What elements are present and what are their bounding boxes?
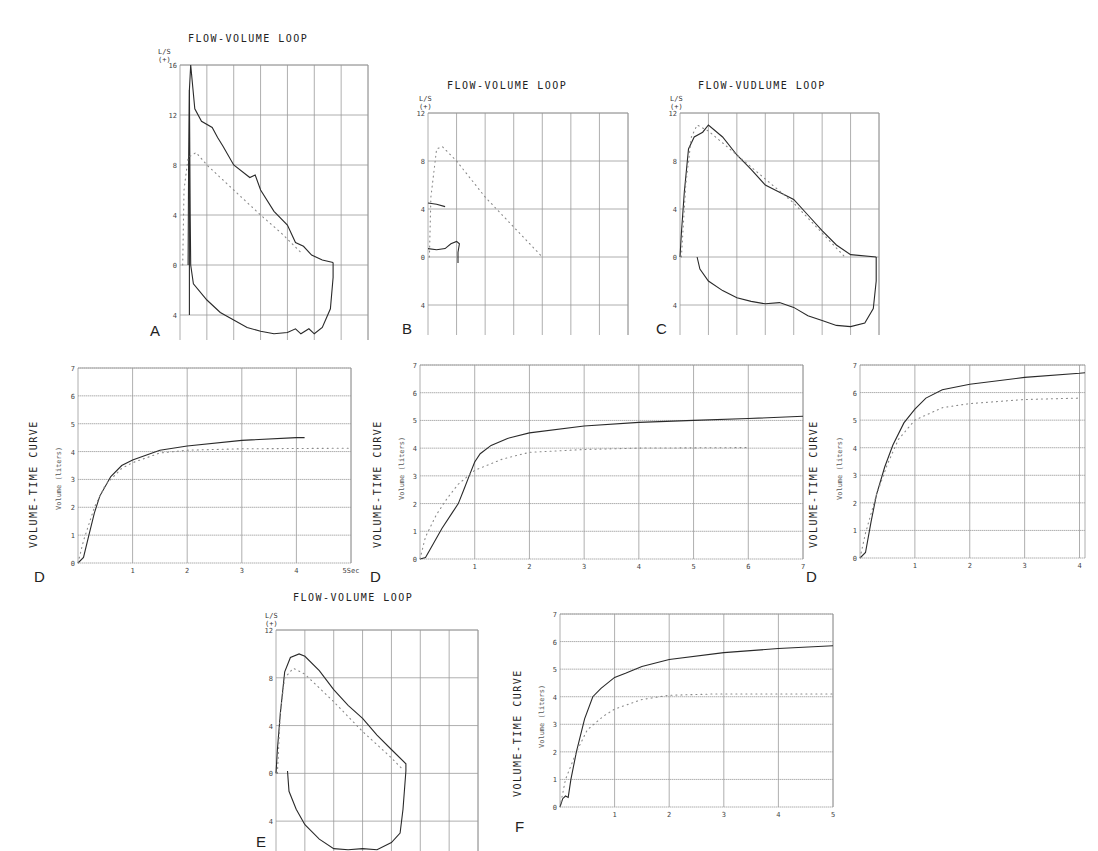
svg-text:2: 2: [553, 749, 557, 757]
svg-text:0: 0: [553, 804, 557, 812]
svg-text:2: 2: [667, 811, 671, 819]
svg-text:1: 1: [612, 811, 616, 819]
measured-curve: [560, 646, 833, 807]
svg-text:4: 4: [553, 694, 557, 702]
svg-text:7: 7: [553, 611, 557, 619]
panel-letter-f: F: [515, 818, 524, 835]
predicted-curve: [560, 694, 833, 807]
svg-text:4: 4: [776, 811, 780, 819]
y-tick-labels: 01234567: [553, 611, 557, 812]
svg-text:3: 3: [553, 721, 557, 729]
x-tick-labels: 12345: [612, 811, 835, 819]
svg-text:1: 1: [553, 776, 557, 784]
plot-f: 0123456712345: [0, 0, 1098, 851]
svg-text:6: 6: [553, 639, 557, 647]
svg-text:3: 3: [722, 811, 726, 819]
svg-text:5: 5: [831, 811, 835, 819]
grid: [560, 614, 833, 807]
svg-text:5: 5: [553, 666, 557, 674]
